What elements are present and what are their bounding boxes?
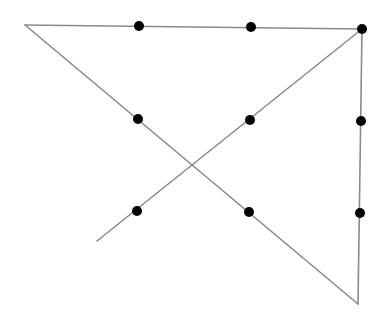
dot-9 — [355, 208, 365, 218]
line-segment-1 — [25, 25, 362, 29]
dot-2 — [246, 22, 256, 32]
nine-dots-diagram — [0, 0, 390, 312]
dot-7 — [132, 206, 142, 216]
dot-5 — [245, 115, 255, 125]
dot-6 — [356, 116, 366, 126]
dot-grid — [132, 21, 367, 218]
dot-3 — [357, 24, 367, 34]
line-segment-2 — [358, 29, 362, 304]
connecting-lines — [25, 25, 362, 304]
dot-8 — [244, 207, 254, 217]
dot-4 — [133, 114, 143, 124]
dot-1 — [134, 21, 144, 31]
